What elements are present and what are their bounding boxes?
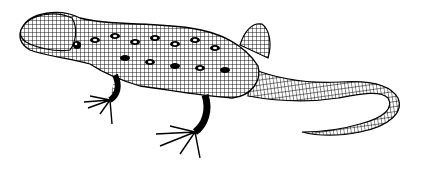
front-leg xyxy=(84,75,118,124)
tail xyxy=(248,68,399,135)
lizard-drawing xyxy=(0,0,443,171)
lizard-illustration xyxy=(0,0,443,171)
eye-icon xyxy=(73,41,81,49)
hind-leg-lower xyxy=(156,95,207,158)
